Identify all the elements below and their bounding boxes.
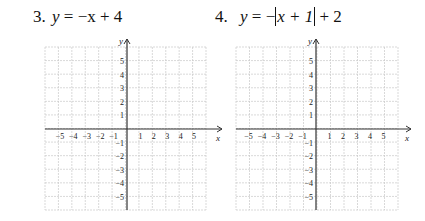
x-tick-label: −3 xyxy=(271,132,280,141)
x-tick-label: −4 xyxy=(258,132,267,141)
y-tick-label: −5 xyxy=(304,193,313,202)
y-tick-label: −1 xyxy=(304,139,313,148)
x-axis-label: x xyxy=(404,133,409,143)
x-tick-label: −5 xyxy=(56,132,65,141)
y-tick-label: −1 xyxy=(115,139,124,148)
x-tick-label: 1 xyxy=(328,132,332,141)
x-tick-label: 5 xyxy=(192,132,196,141)
x-axis-label: x xyxy=(215,133,220,143)
y-tick-label: 1 xyxy=(120,111,124,120)
x-tick-label: 4 xyxy=(368,132,372,141)
x-tick-label: 5 xyxy=(382,132,386,141)
coordinate-grid-3: xy−5−4−3−2−11234554321−1−2−3−4−5 xyxy=(45,36,222,210)
x-tick-label: 3 xyxy=(355,132,359,141)
y-tick-label: 4 xyxy=(120,71,124,80)
x-tick-label: 3 xyxy=(165,132,169,141)
y-tick-label: −3 xyxy=(304,166,313,175)
y-tick-label: −2 xyxy=(115,152,124,161)
x-tick-label: −3 xyxy=(82,132,91,141)
x-tick-label: 4 xyxy=(179,132,183,141)
y-axis-label: y xyxy=(307,36,312,46)
y-axis-label: y xyxy=(118,36,123,46)
x-tick-label: −4 xyxy=(69,132,78,141)
y-tick-label: −3 xyxy=(115,166,124,175)
y-tick-label: 3 xyxy=(309,84,313,93)
x-tick-label: −2 xyxy=(96,132,105,141)
y-tick-label: −4 xyxy=(115,179,124,188)
x-tick-label: −2 xyxy=(285,132,294,141)
y-tick-label: −5 xyxy=(115,193,124,202)
y-tick-label: −4 xyxy=(304,179,313,188)
y-tick-label: 1 xyxy=(309,111,313,120)
x-tick-label: 1 xyxy=(138,132,142,141)
y-tick-label: −2 xyxy=(304,152,313,161)
coordinate-grids: xy−5−4−3−2−11234554321−1−2−3−4−5 xy−5−4−… xyxy=(0,0,425,221)
x-tick-label: −5 xyxy=(244,132,253,141)
coordinate-grid-4: xy−5−4−3−2−11234554321−1−2−3−4−5 xyxy=(236,36,411,210)
y-tick-label: 4 xyxy=(309,71,313,80)
y-tick-label: 2 xyxy=(309,98,313,107)
y-tick-label: 5 xyxy=(120,57,124,66)
y-tick-label: 3 xyxy=(120,84,124,93)
x-tick-label: 2 xyxy=(152,132,156,141)
y-tick-label: 5 xyxy=(309,57,313,66)
x-tick-label: 2 xyxy=(341,132,345,141)
y-tick-label: 2 xyxy=(120,98,124,107)
